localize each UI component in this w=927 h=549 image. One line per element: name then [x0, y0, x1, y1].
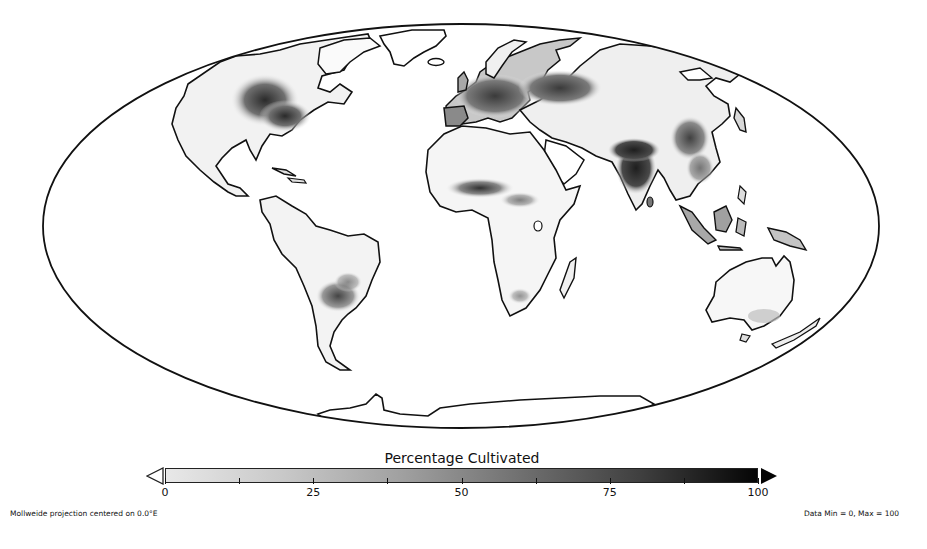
- land-layer: [172, 30, 820, 432]
- colorbar-tick-label: 50: [455, 486, 469, 499]
- colorbar-tick-label: 0: [162, 486, 169, 499]
- colorbar-major-tick: [610, 478, 611, 484]
- colorbar-minor-tick: [239, 478, 240, 484]
- projection-label: Mollweide projection centered on 0.0°E: [10, 509, 158, 518]
- colorbar-major-tick: [313, 478, 314, 484]
- colorbar-minor-tick: [684, 478, 685, 484]
- colorbar-title: Percentage Cultivated: [165, 450, 759, 466]
- colorbar-extend-low-icon: [146, 467, 164, 485]
- colorbar-major-tick: [165, 478, 166, 484]
- colorbar-major-tick: [462, 478, 463, 484]
- colorbar-extend-high-icon: [760, 467, 778, 485]
- colorbar-tick-label: 75: [603, 486, 617, 499]
- world-map: [0, 0, 927, 440]
- data-range-label: Data Min = 0, Max = 100: [804, 509, 899, 518]
- colorbar-minor-tick: [536, 478, 537, 484]
- colorbar-major-tick: [758, 478, 759, 484]
- colorbar-minor-tick: [387, 478, 388, 484]
- south-america: [260, 196, 380, 370]
- colorbar-tick-label: 100: [748, 486, 769, 499]
- colorbar-tick-label: 25: [306, 486, 320, 499]
- antarctica: [318, 394, 654, 432]
